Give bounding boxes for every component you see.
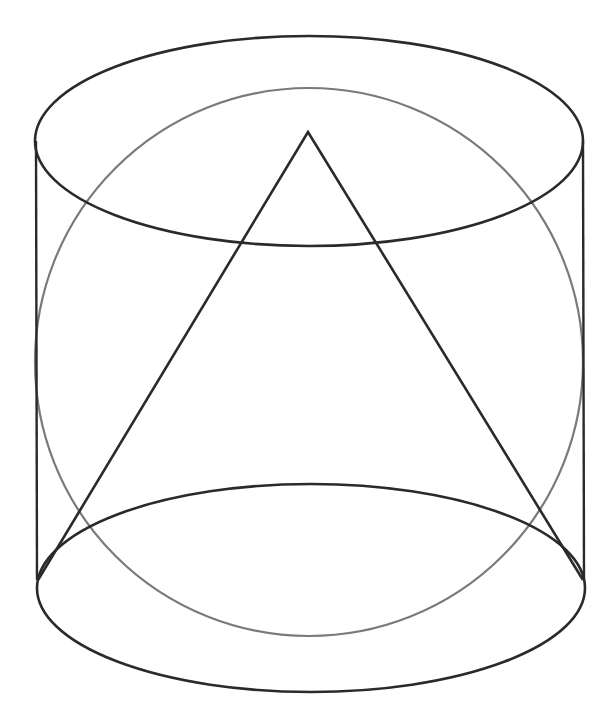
geometry-diagram: [0, 0, 611, 718]
cylinder-right-edge: [583, 141, 584, 580]
cylinder-top-ellipse: [35, 36, 583, 246]
cylinder-bottom-ellipse: [37, 484, 585, 692]
cylinder-left-edge: [36, 141, 37, 580]
inscribed-sphere: [35, 88, 583, 636]
